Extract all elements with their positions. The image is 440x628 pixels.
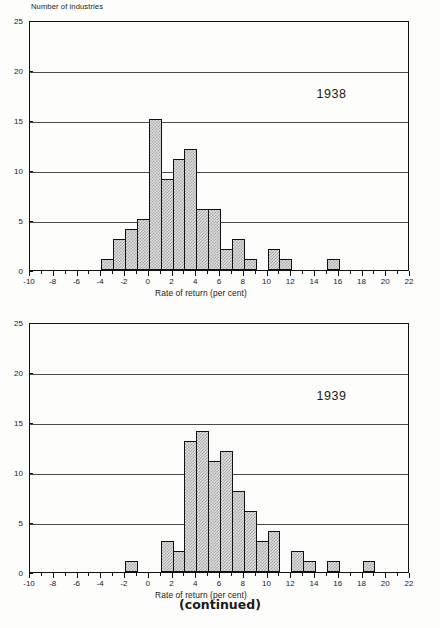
y-tick-label: 10	[0, 167, 23, 176]
x-tick-minor	[160, 271, 161, 274]
x-tick-major	[100, 271, 101, 276]
y-tick-label: 20	[0, 67, 23, 76]
y-tick-mark	[29, 71, 33, 72]
figure-page: Number of industries 0510152025-10-8-6-4…	[0, 0, 440, 628]
x-tick-label: 20	[373, 277, 397, 286]
x-tick-label: 12	[278, 579, 302, 588]
x-tick-minor	[88, 271, 89, 274]
x-tick-label: 22	[397, 277, 421, 286]
x-tick-label: 10	[255, 277, 279, 286]
continued-note: (continued)	[0, 597, 440, 612]
x-tick-minor	[326, 271, 327, 274]
y-tick-mark	[29, 523, 33, 524]
x-tick-label: 6	[207, 579, 231, 588]
y-tick-mark	[29, 373, 33, 374]
y-tick-label: 25	[0, 17, 23, 26]
y-tick-label: 15	[0, 419, 23, 428]
x-tick-label: -4	[88, 277, 112, 286]
y-tick-mark	[29, 21, 33, 22]
y-tick-label: 0	[0, 569, 23, 578]
x-tick-label: 16	[326, 579, 350, 588]
x-tick-major	[267, 573, 268, 578]
x-tick-minor	[373, 271, 374, 274]
x-tick-label: -6	[65, 277, 89, 286]
x-tick-label: 22	[397, 579, 421, 588]
x-tick-label: 10	[255, 579, 279, 588]
y-tick-mark	[29, 171, 33, 172]
x-tick-label: 8	[231, 579, 255, 588]
x-tick-major	[385, 573, 386, 578]
x-tick-label: 14	[302, 277, 326, 286]
histogram-1939: 0510152025-10-8-6-4-20246810121416182022…	[0, 305, 440, 595]
y-tick-label: 10	[0, 469, 23, 478]
y-tick-label: 5	[0, 217, 23, 226]
x-tick-major	[243, 573, 244, 578]
x-tick-label: 4	[183, 579, 207, 588]
y-tick-mark	[29, 423, 33, 424]
y-tick-mark	[29, 473, 33, 474]
x-tick-major	[409, 271, 410, 276]
bar-series	[30, 22, 408, 270]
x-tick-label: -2	[112, 277, 136, 286]
x-tick-major	[195, 573, 196, 578]
x-tick-minor	[207, 573, 208, 576]
histogram-bar	[244, 259, 257, 270]
x-tick-major	[124, 271, 125, 276]
x-tick-major	[314, 573, 315, 578]
x-tick-minor	[207, 271, 208, 274]
y-tick-label: 0	[0, 267, 23, 276]
x-tick-major	[148, 573, 149, 578]
y-tick-label: 20	[0, 369, 23, 378]
x-tick-label: 16	[326, 277, 350, 286]
y-tick-mark	[29, 323, 33, 324]
x-tick-label: 14	[302, 579, 326, 588]
x-tick-minor	[88, 573, 89, 576]
x-tick-major	[219, 271, 220, 276]
x-tick-major	[409, 573, 410, 578]
x-tick-label: 12	[278, 277, 302, 286]
bar-series	[30, 324, 408, 572]
plot-area-1939	[29, 323, 409, 573]
year-annotation: 1939	[316, 389, 346, 403]
histogram-bar	[327, 259, 340, 270]
x-tick-minor	[350, 271, 351, 274]
histogram-1938: Number of industries 0510152025-10-8-6-4…	[0, 0, 440, 308]
x-axis-title: Rate of return (per cent)	[0, 288, 440, 298]
x-tick-label: 8	[231, 277, 255, 286]
y-tick-mark	[29, 221, 33, 222]
x-tick-major	[195, 271, 196, 276]
x-tick-minor	[302, 271, 303, 274]
x-tick-label: 18	[350, 579, 374, 588]
histogram-bar	[363, 561, 376, 572]
y-tick-label: 15	[0, 117, 23, 126]
y-tick-label: 5	[0, 519, 23, 528]
x-tick-minor	[231, 271, 232, 274]
x-tick-label: 6	[207, 277, 231, 286]
x-tick-label: 20	[373, 579, 397, 588]
x-tick-minor	[255, 271, 256, 274]
x-tick-minor	[136, 573, 137, 576]
x-tick-major	[53, 271, 54, 276]
x-tick-minor	[373, 573, 374, 576]
x-tick-minor	[326, 573, 327, 576]
x-tick-major	[77, 573, 78, 578]
x-tick-minor	[41, 573, 42, 576]
x-tick-major	[53, 573, 54, 578]
x-tick-label: -6	[65, 579, 89, 588]
x-tick-major	[385, 271, 386, 276]
x-tick-major	[29, 573, 30, 578]
x-tick-label: -4	[88, 579, 112, 588]
x-tick-major	[314, 271, 315, 276]
x-tick-label: -8	[41, 277, 65, 286]
x-tick-label: 0	[136, 277, 160, 286]
x-tick-minor	[302, 573, 303, 576]
x-tick-minor	[397, 271, 398, 274]
x-tick-label: 18	[350, 277, 374, 286]
histogram-bar	[279, 259, 292, 270]
x-tick-major	[338, 573, 339, 578]
x-tick-minor	[278, 271, 279, 274]
year-annotation: 1938	[316, 87, 346, 101]
x-tick-label: 0	[136, 579, 160, 588]
x-tick-minor	[278, 573, 279, 576]
y-tick-mark	[29, 121, 33, 122]
